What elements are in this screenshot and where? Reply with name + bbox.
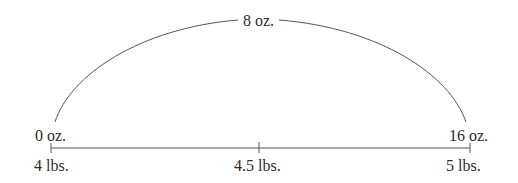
arc-start-label: 0 oz. xyxy=(35,127,66,144)
tick-label-4-lbs: 4 lbs. xyxy=(34,157,69,174)
arc-top-label: 8 oz. xyxy=(243,12,274,29)
ounce-arc-right xyxy=(279,20,466,122)
ounce-arc-left xyxy=(55,20,238,122)
tick-label-5-lbs: 5 lbs. xyxy=(446,157,481,174)
tick-label-4-5-lbs: 4.5 lbs. xyxy=(234,157,281,174)
arc-end-label: 16 oz. xyxy=(449,127,488,144)
weight-number-line-diagram: 8 oz. 0 oz. 16 oz. 4 lbs. 4.5 lbs. 5 lbs… xyxy=(0,0,518,183)
